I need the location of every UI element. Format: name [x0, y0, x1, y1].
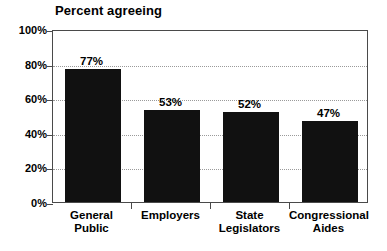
y-axis-tick-label: 40%: [3, 128, 47, 140]
bar-value-label: 77%: [64, 55, 120, 67]
x-axis-category-label-line: General: [52, 209, 131, 222]
bar-value-label: 53%: [143, 96, 199, 108]
x-axis-category-label: CongressionalAides: [289, 209, 368, 235]
y-axis-tick-mark: [47, 204, 53, 205]
bar-chart: Percent agreeing 0%20%40%60%80%100% 77%G…: [0, 0, 387, 251]
y-axis-tick-label: 80%: [3, 59, 47, 71]
bar: [65, 69, 121, 202]
bar-value-label: 47%: [301, 107, 357, 119]
bar: [302, 121, 358, 202]
y-axis-tick-label: 60%: [3, 93, 47, 105]
x-axis-category-label-line: Legislators: [210, 222, 289, 235]
bar: [144, 110, 200, 202]
y-axis-tick-label: 20%: [3, 162, 47, 174]
y-axis-tick-mark: [47, 31, 53, 32]
x-axis-category-label: GeneralPublic: [52, 209, 131, 235]
y-axis-tick-mark: [47, 135, 53, 136]
x-axis-category-label: Employers: [131, 209, 210, 222]
x-axis-category-label: StateLegislators: [210, 209, 289, 235]
x-axis-category-label-line: Congressional: [289, 209, 368, 222]
y-axis-tick-label: 0%: [3, 197, 47, 209]
bar: [223, 112, 279, 202]
x-axis-category-label-line: Aides: [289, 222, 368, 235]
y-axis-tick-mark: [47, 66, 53, 67]
y-axis-tick-mark: [47, 169, 53, 170]
y-axis-tick-label: 100%: [3, 24, 47, 36]
x-axis-category-label-line: State: [210, 209, 289, 222]
y-axis: 0%20%40%60%80%100%: [0, 30, 47, 203]
x-axis-category-label-line: Employers: [131, 209, 210, 222]
bar-value-label: 52%: [222, 98, 278, 110]
y-axis-tick-mark: [47, 100, 53, 101]
x-axis-category-label-line: Public: [52, 222, 131, 235]
chart-title: Percent agreeing: [55, 3, 162, 18]
